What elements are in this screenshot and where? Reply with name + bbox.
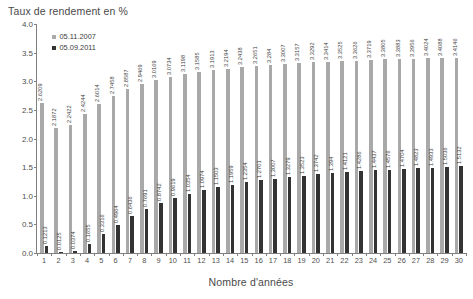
bar-group: 3.38051.4576: [380, 24, 394, 253]
bar-value-label: 3.1913: [209, 51, 215, 69]
x-axis-tick-mark: [409, 253, 410, 256]
bar-value-label: 1.0974: [199, 170, 205, 188]
bars-layer: 2.62090.12132.18720.01252.24220.03742.42…: [37, 24, 466, 253]
bar-value-label: 1.4437: [371, 151, 377, 169]
x-axis-tick-label: 23: [355, 256, 363, 265]
bar-group: 2.85870.6436: [123, 24, 137, 253]
bar-series-2011: [216, 187, 220, 253]
x-axis-tick-mark: [166, 253, 167, 256]
plot-area: 0.00.51.01.52.02.53.03.54.0 2.62090.1213…: [36, 24, 466, 254]
x-axis-tick-mark: [194, 253, 195, 256]
bar-series-2011: [88, 244, 92, 253]
bar-value-label: 3.3525: [337, 41, 343, 59]
bar-value-label: 3.4146: [452, 38, 458, 56]
bar-series-2007: [226, 69, 230, 253]
x-axis-tick-mark: [395, 253, 396, 256]
bar-value-label: 3.3883: [395, 39, 401, 57]
x-axis-tick-mark: [94, 253, 95, 256]
bar-value-label: 1.4933: [428, 148, 434, 166]
bar-series-2011: [173, 198, 177, 253]
x-axis-tick-label: 15: [240, 256, 248, 265]
x-axis-tick-label: 14: [226, 256, 234, 265]
x-axis-tick-mark: [109, 253, 110, 256]
x-axis-tick-label: 4: [85, 256, 89, 265]
bar-value-label: 1.4704: [399, 149, 405, 167]
bar-group: 3.24381.2354: [237, 24, 251, 253]
bar-series-2011: [188, 194, 192, 253]
bar-value-label: 1.4286: [356, 152, 362, 170]
bar-group: 3.19131.1503: [209, 24, 223, 253]
bar-value-label: 3.2438: [237, 48, 243, 66]
bar-value-label: 0.8742: [156, 183, 162, 201]
bar-value-label: 1.4121: [342, 152, 348, 170]
x-axis-tick-label: 1: [42, 256, 46, 265]
bar-group: 3.36261.4286: [352, 24, 366, 253]
bar-value-label: 2.6014: [94, 84, 100, 102]
bar-group: 3.40881.5036: [437, 24, 451, 253]
legend-swatch-icon: [52, 35, 56, 39]
bar-value-label: 3.3157: [294, 43, 300, 61]
bar-series-2011: [245, 182, 249, 253]
bar-value-label: 1.4823: [413, 148, 419, 166]
bar-value-label: 0.0125: [56, 233, 62, 251]
legend-swatch-icon: [52, 46, 56, 50]
bar-series-2011: [402, 169, 406, 253]
bar-value-label: 1.3279: [285, 157, 291, 175]
bar-series-2007: [240, 67, 244, 253]
x-axis-tick-label: 18: [283, 256, 291, 265]
bar-series-2011: [388, 170, 392, 253]
bar-series-2007: [126, 89, 130, 253]
x-axis-tick-label: 27: [412, 256, 420, 265]
bar-series-2011: [359, 171, 363, 253]
bar-value-label: 0.1655: [85, 224, 91, 242]
bar-series-2011: [445, 167, 449, 253]
bar-group: 2.74580.4964: [109, 24, 123, 253]
x-axis-tick-label: 19: [297, 256, 305, 265]
bar-value-label: 1.2354: [242, 163, 248, 181]
bar-series-2007: [212, 70, 216, 253]
bar-series-2011: [374, 170, 378, 253]
bar-value-label: 1.1959: [228, 165, 234, 183]
bar-value-label: 2.7458: [109, 76, 115, 94]
bar-group: 3.38831.4704: [395, 24, 409, 253]
bar-value-label: 2.1872: [51, 108, 57, 126]
bar-group: 3.34141.394: [323, 24, 337, 253]
bar-chart: Taux de rendement en % 0.00.51.01.52.02.…: [0, 0, 473, 299]
bar-value-label: 0.0374: [70, 231, 76, 249]
bar-value-label: 3.3626: [352, 41, 358, 59]
bar-group: 2.42440.1655: [80, 24, 94, 253]
bar-series-2007: [112, 96, 116, 253]
bar-value-label: 1.394: [328, 157, 334, 172]
bar-group: 3.37191.4437: [366, 24, 380, 253]
x-axis-tick-mark: [337, 253, 338, 256]
bar-series-2011: [331, 173, 335, 253]
legend-item[interactable]: 05.11.2007: [52, 32, 96, 43]
x-axis-tick-label: 6: [114, 256, 118, 265]
legend-item-label: 05.11.2007: [60, 32, 96, 43]
bar-value-label: 2.4244: [80, 94, 86, 112]
bar-series-2011: [345, 172, 349, 253]
x-axis-tick-label: 10: [169, 256, 177, 265]
x-axis-tick-label: 8: [142, 256, 146, 265]
bar-series-2007: [183, 74, 187, 253]
legend-item[interactable]: 05.09.2011: [52, 43, 96, 54]
x-axis-tick-label: 25: [383, 256, 391, 265]
x-axis-tick-mark: [466, 253, 467, 256]
bar-group: 3.2841.3007: [266, 24, 280, 253]
bar-value-label: 1.3742: [313, 155, 319, 173]
x-axis-tick-label: 5: [99, 256, 103, 265]
bar-value-label: 3.0169: [151, 61, 157, 79]
x-axis-tick-mark: [252, 253, 253, 256]
x-axis-tick-mark: [380, 253, 381, 256]
bar-series-2011: [259, 180, 263, 253]
x-axis-tick-mark: [366, 253, 367, 256]
bar-value-label: 0.9619: [170, 178, 176, 196]
bar-series-2011: [416, 168, 420, 253]
bar-value-label: 2.2422: [66, 105, 72, 123]
bar-group: 3.07340.9619: [166, 24, 180, 253]
bar-series-2011: [231, 185, 235, 253]
bar-series-2007: [140, 84, 144, 253]
bar-value-label: 2.6209: [37, 83, 43, 101]
x-axis-tick-label: 11: [183, 256, 191, 265]
bar-value-label: 1.5132: [456, 147, 462, 165]
